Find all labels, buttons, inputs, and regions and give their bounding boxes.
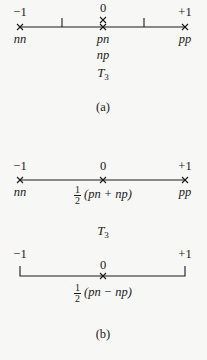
caption-a: (a) bbox=[96, 101, 110, 114]
operator-label-t3-b: T3 bbox=[97, 224, 109, 240]
state-label-pp-b: pp bbox=[179, 186, 192, 199]
state-label-np: np bbox=[97, 49, 110, 62]
state-label-pn: pn bbox=[97, 33, 110, 46]
axis-label-plus-one: +1 bbox=[178, 6, 191, 19]
state-label-nn-b: nn bbox=[14, 186, 27, 199]
axis-label-zero-b-top: 0 bbox=[100, 160, 106, 173]
caption-b: (b) bbox=[96, 328, 111, 341]
axis-label-minus-one: −1 bbox=[13, 6, 26, 19]
fraction-one-half: 12 bbox=[74, 283, 81, 304]
antisymmetric-state-label: 12(pn − np) bbox=[74, 283, 132, 304]
axis-label-plus-one-b-bottom: +1 bbox=[178, 248, 191, 261]
axis-label-minus-one-b-bottom: −1 bbox=[13, 248, 26, 261]
axis-label-zero-b-bottom: 0 bbox=[100, 259, 106, 272]
fraction-one-half: 12 bbox=[74, 185, 81, 206]
axis-label-minus-one-b-top: −1 bbox=[13, 160, 26, 173]
state-label-nn: nn bbox=[14, 33, 27, 46]
state-label-pp: pp bbox=[179, 33, 192, 46]
symmetric-state-label: 12(pn + np) bbox=[74, 185, 132, 206]
operator-label-t3-a: T3 bbox=[97, 66, 109, 82]
axis-label-plus-one-b-top: +1 bbox=[178, 160, 191, 173]
axis-label-zero: 0 bbox=[100, 2, 106, 15]
cross-marker-pn bbox=[100, 17, 106, 23]
